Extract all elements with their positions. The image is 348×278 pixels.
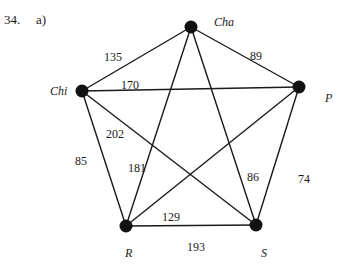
edge-cha-s [191, 27, 256, 225]
edge-chi-r [82, 91, 126, 226]
edge-weight-label: 193 [187, 241, 205, 253]
edge-cha-r [126, 27, 191, 226]
edge-r-s [126, 225, 256, 226]
node-r [120, 220, 133, 233]
edge-weight-label: 181 [128, 162, 146, 174]
edge-chi-p [82, 87, 299, 91]
edge-weight-label: 170 [121, 79, 139, 91]
edge-weight-label: 86 [247, 171, 259, 183]
edge-weight-label: 89 [250, 50, 262, 62]
edge-weight-label: 202 [106, 128, 124, 140]
edge-weight-label: 129 [162, 211, 180, 223]
node-p [293, 81, 306, 94]
node-label-cha: Cha [214, 16, 234, 28]
edge-weight-label: 74 [298, 173, 310, 185]
edge-p-r [126, 87, 299, 226]
node-label-s: S [261, 247, 267, 259]
node-label-p: P [325, 92, 332, 104]
graph-diagram [0, 0, 348, 278]
node-chi [76, 85, 89, 98]
edge-weight-label: 135 [104, 51, 122, 63]
node-label-chi: Chi [50, 85, 67, 97]
problem-number: 34. [4, 14, 20, 26]
problem-part: a) [36, 14, 46, 26]
node-s [250, 219, 263, 232]
node-label-r: R [125, 247, 132, 259]
edge-chi-s [82, 91, 256, 225]
edge-weight-label: 85 [75, 155, 87, 167]
node-cha [185, 21, 198, 34]
edge-p-s [256, 87, 299, 225]
